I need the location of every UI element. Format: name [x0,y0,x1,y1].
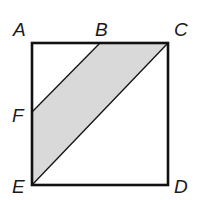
label-f: F [12,105,25,126]
label-b: B [95,19,108,40]
label-e: E [12,176,25,197]
label-d: D [174,176,188,197]
label-c: C [174,19,188,40]
label-a: A [12,19,26,40]
geometry-figure: A B C F E D [0,0,198,200]
